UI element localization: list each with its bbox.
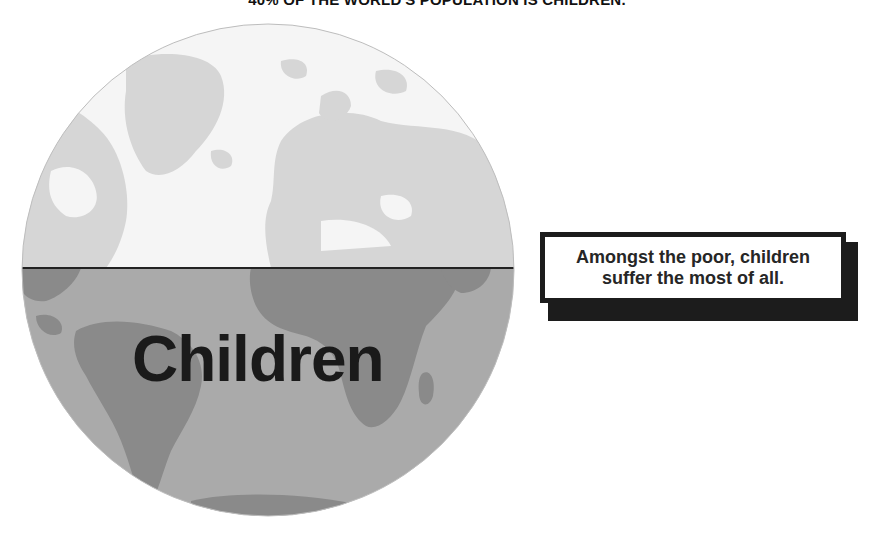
callout-line-2: suffer the most of all. <box>602 268 784 289</box>
globe-graphic: Children <box>21 21 515 519</box>
page-title: 40% OF THE WORLD'S POPULATION IS CHILDRE… <box>0 0 874 8</box>
globe-icon <box>21 21 515 519</box>
children-label: Children <box>132 327 384 391</box>
callout-line-1: Amongst the poor, children <box>576 247 810 268</box>
callout-box: Amongst the poor, children suffer the mo… <box>540 232 846 303</box>
